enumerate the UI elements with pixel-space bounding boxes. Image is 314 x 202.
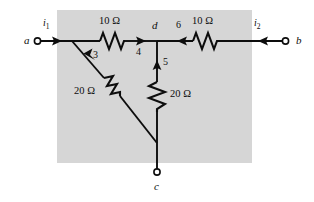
resistor-vertical-20-ohm-label: 20 Ω: [170, 89, 191, 100]
resistor-left-10-ohm-label: 10 Ω: [99, 16, 120, 27]
circuit-diagram-figure: a b c d i1 i2 3 4 5 6 10 Ω 10 Ω 20 Ω 20 …: [0, 0, 314, 202]
terminal-b-label: b: [296, 35, 302, 46]
current-i2-subscript: 2: [257, 22, 261, 31]
current-3-label: 3: [93, 50, 98, 60]
resistor-right-10-ohm-label: 10 Ω: [192, 16, 213, 27]
node-d-label: d: [152, 20, 158, 31]
resistor-diagonal-20-ohm-label: 20 Ω: [74, 86, 95, 97]
terminal-a-circle: [34, 38, 40, 44]
terminal-c-label: c: [154, 181, 159, 192]
current-i1-subscript: 1: [46, 22, 50, 31]
current-5-label: 5: [163, 57, 168, 67]
current-i2-label: i2: [254, 18, 261, 31]
terminal-b-circle: [282, 38, 288, 44]
terminal-c-circle: [154, 169, 160, 175]
current-i1-label: i1: [43, 18, 50, 31]
current-6-label: 6: [176, 20, 181, 30]
current-4-label: 4: [136, 47, 141, 57]
terminal-a-label: a: [24, 35, 30, 46]
